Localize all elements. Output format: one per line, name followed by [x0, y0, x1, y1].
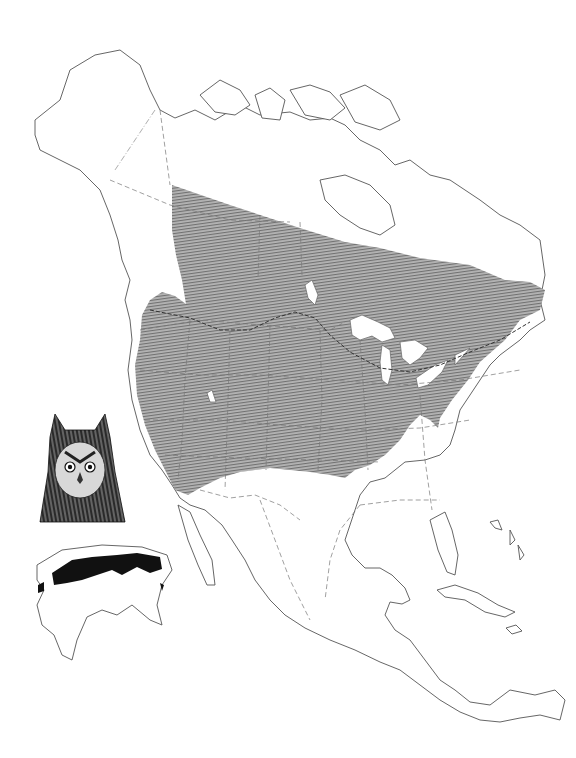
- old-world-range-inset: [37, 545, 172, 660]
- range-map: [0, 0, 576, 758]
- owl-head-illustration: [40, 414, 125, 522]
